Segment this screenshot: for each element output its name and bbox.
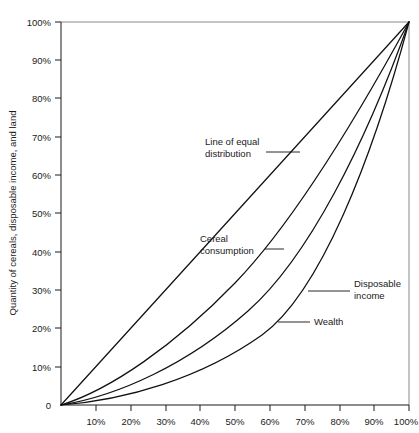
- annotation-line-of-equal-distribution: Line of equal distribution: [205, 136, 259, 159]
- y-axis-tick-labels: 100% 90% 80% 70% 60% 50% 40% 30% 20% 10%…: [27, 17, 52, 411]
- y-origin-label: 0: [46, 400, 51, 411]
- y-tick-label: 90%: [32, 55, 52, 66]
- x-axis-tick-labels: 10% 20% 30% 40% 50% 60% 70% 80% 90% 100%: [86, 416, 418, 427]
- y-tick-label: 80%: [32, 93, 52, 104]
- y-tick-label: 50%: [32, 208, 52, 219]
- x-tick-label: 70%: [295, 416, 315, 427]
- x-tick-label: 20%: [121, 416, 141, 427]
- x-axis-ticks: [96, 405, 409, 411]
- curve-line-of-equal-distribution: [61, 22, 409, 405]
- annotation-text-line2: consumption: [200, 245, 254, 256]
- x-tick-label: 80%: [330, 416, 350, 427]
- y-tick-label: 10%: [32, 362, 52, 373]
- y-axis-title: Quantity of cereals, disposable income, …: [7, 111, 18, 316]
- annotation-text-line2: distribution: [205, 148, 251, 159]
- annotation-text-line1: Wealth: [314, 316, 343, 327]
- annotation-cereal-consumption: Cereal consumption: [200, 233, 254, 256]
- x-tick-label: 90%: [364, 416, 384, 427]
- x-tick-label: 60%: [260, 416, 280, 427]
- chart-canvas: 100% 90% 80% 70% 60% 50% 40% 30% 20% 10%…: [0, 0, 419, 433]
- x-tick-label: 100%: [394, 416, 419, 427]
- x-tick-label: 10%: [86, 416, 106, 427]
- x-tick-label: 50%: [225, 416, 245, 427]
- y-tick-label: 40%: [32, 247, 52, 258]
- y-tick-label: 60%: [32, 170, 52, 181]
- y-tick-label: 20%: [32, 323, 52, 334]
- annotation-disposable-income: Disposable income: [354, 278, 401, 301]
- annotation-text-line1: Cereal: [200, 233, 228, 244]
- annotation-text-line1: Line of equal: [205, 136, 259, 147]
- y-tick-label: 30%: [32, 285, 52, 296]
- x-tick-label: 30%: [156, 416, 176, 427]
- annotation-text-line2: income: [354, 290, 385, 301]
- y-axis-ticks: [55, 22, 61, 367]
- lorenz-curve-chart: 100% 90% 80% 70% 60% 50% 40% 30% 20% 10%…: [0, 0, 419, 433]
- x-tick-label: 40%: [190, 416, 210, 427]
- annotation-text-line1: Disposable: [354, 278, 401, 289]
- y-tick-label: 70%: [32, 132, 52, 143]
- y-tick-label: 100%: [27, 17, 52, 28]
- annotation-wealth: Wealth: [314, 316, 343, 327]
